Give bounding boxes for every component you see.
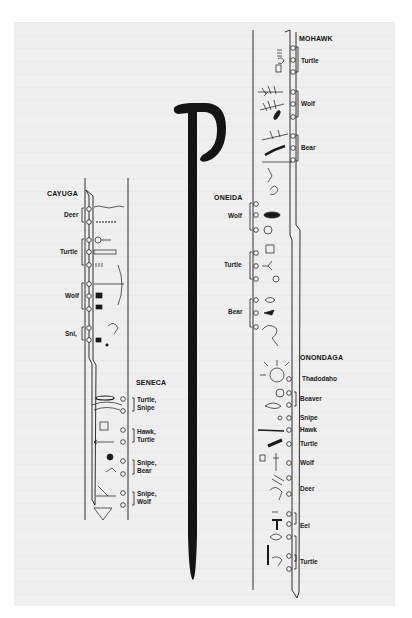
- glyph-sun: [270, 368, 284, 382]
- clan-label-onondaga-snipe: Snipe: [300, 415, 318, 422]
- clan-label-onondaga-eel: Eel: [300, 523, 310, 530]
- nation-title-cayuga: CAYUGA: [47, 190, 78, 197]
- nation-title-seneca: SENECA: [136, 379, 166, 386]
- clan-label-cayuga-wolf: Wolf: [65, 293, 79, 300]
- clan-label-cayuga-snipe: Sni,: [65, 331, 77, 338]
- cane: [174, 103, 226, 580]
- clan-label-oneida-wolf: Wolf: [228, 213, 242, 220]
- clan-label-seneca-1a: Turtle,: [137, 397, 156, 404]
- seneca-pegs: [121, 397, 126, 508]
- onondaga-pegs: [287, 377, 292, 572]
- clan-label-onondaga-beaver: Beaver: [300, 396, 322, 403]
- oneida-pegs: [254, 202, 259, 330]
- clan-label-seneca-3b: Bear: [137, 468, 151, 475]
- clan-label-mohawk-turtle: Turtle: [301, 58, 319, 65]
- clan-label-seneca-1b: Snipe: [137, 405, 155, 412]
- clan-label-cayuga-turtle: Turtle: [60, 249, 78, 256]
- glyph-tree: [258, 86, 283, 96]
- clan-label-seneca-2a: Hawk,: [137, 429, 156, 436]
- clan-label-onondaga-deer: Deer: [300, 486, 314, 493]
- nation-title-mohawk: MOHAWK: [299, 35, 333, 42]
- mohawk-pegs: [291, 46, 296, 163]
- clan-label-onondaga-turtle-2: Turtle: [300, 559, 318, 566]
- clan-label-onondaga-thadodaho: Thadodaho: [302, 376, 337, 383]
- clan-label-oneida-turtle: Turtle: [224, 262, 242, 269]
- cane-shaft: [174, 103, 226, 580]
- clan-label-seneca-3a: Snipe,: [137, 460, 157, 467]
- nation-title-onondaga: ONONDAGA: [300, 354, 343, 361]
- glyph-box: [276, 65, 281, 72]
- cane-diagram: [0, 0, 412, 618]
- clan-label-seneca-4a: Snipe,: [137, 491, 157, 498]
- clan-label-onondaga-turtle: Turtle: [300, 441, 318, 448]
- clan-label-mohawk-bear: Bear: [301, 145, 315, 152]
- clan-label-cayuga-deer: Deer: [64, 212, 78, 219]
- clan-label-seneca-4b: Wolf: [137, 499, 151, 506]
- clan-label-onondaga-hawk: Hawk: [300, 427, 317, 434]
- clan-label-seneca-2b: Turtle: [137, 437, 155, 444]
- left-strip-peg-band: [86, 190, 96, 505]
- clan-label-oneida-bear: Bear: [228, 309, 242, 316]
- clan-label-mohawk-wolf: Wolf: [301, 101, 315, 108]
- nation-title-oneida: ONEIDA: [214, 194, 242, 201]
- clan-label-onondaga-wolf: Wolf: [300, 460, 314, 467]
